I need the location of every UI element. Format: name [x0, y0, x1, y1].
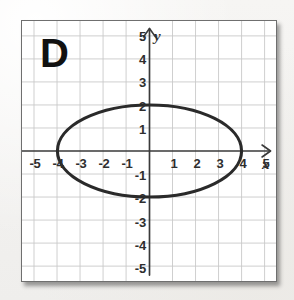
y-tick-label: -4	[135, 238, 146, 251]
y-tick-label: -2	[135, 192, 146, 205]
quadrant-letter: D	[40, 33, 69, 73]
x-tick-label: 2	[193, 157, 200, 170]
y-tick-label: -3	[135, 215, 146, 228]
x-tick-label: 1	[170, 157, 177, 170]
x-axis-name: x	[262, 157, 270, 172]
y-tick-label: 4	[139, 53, 146, 66]
y-tick-label: 3	[139, 76, 146, 89]
y-tick-label: 2	[139, 99, 146, 112]
x-tick-label: 3	[216, 157, 223, 170]
x-tick-label: -1	[121, 157, 132, 170]
x-tick-label: -3	[75, 157, 86, 170]
coordinate-plane-graph: D -5 -4 -3 -2 -1 1 2 3 4 5 5 4 3 2 1 -1 …	[21, 20, 277, 282]
x-tick-label: 4	[239, 157, 246, 170]
y-tick-label: -1	[135, 169, 146, 182]
y-tick-label: -5	[135, 262, 146, 275]
y-axis-name: y	[154, 29, 161, 44]
axis-labels: D -5 -4 -3 -2 -1 1 2 3 4 5 5 4 3 2 1 -1 …	[22, 21, 276, 281]
x-tick-label: -2	[98, 157, 109, 170]
x-tick-label: -4	[52, 157, 63, 170]
x-tick-label: -5	[29, 157, 40, 170]
y-tick-label: 5	[139, 30, 146, 43]
y-tick-label: 1	[139, 122, 146, 135]
